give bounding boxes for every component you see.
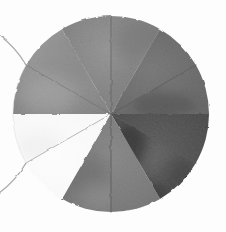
sector-disc-chart [0,0,226,232]
sector-top-left-wash-light [20,76,76,116]
figure-root [0,0,226,232]
